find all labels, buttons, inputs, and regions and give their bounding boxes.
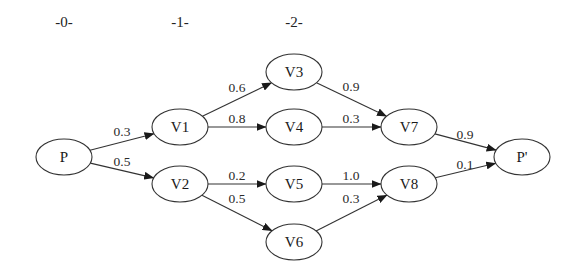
edge-weight-label: 0.3: [114, 124, 131, 139]
edge-weight-label: 0.9: [457, 127, 474, 142]
edge-weight-label: 0.5: [114, 154, 131, 169]
node-label: V8: [400, 176, 418, 192]
edge-weight-label: 0.3: [343, 191, 360, 206]
node-v3: V3: [266, 54, 322, 90]
node-v2: V2: [152, 166, 208, 202]
edge-weight-label: 1.0: [343, 168, 360, 183]
node-v5: V5: [266, 166, 322, 202]
node-label: V6: [285, 234, 304, 250]
column-header-2: -2-: [285, 14, 303, 30]
node-label: V2: [171, 176, 189, 192]
edge-weight-label: 0.5: [229, 191, 246, 206]
node-label: P': [516, 149, 527, 165]
edge-weight-label: 0.6: [229, 80, 246, 95]
edge-weight-label: 0.9: [343, 79, 360, 94]
node-v7: V7: [381, 109, 437, 145]
node-label: V5: [285, 176, 303, 192]
edge-weight-label: 0.3: [343, 111, 360, 126]
graph-canvas: -0--1--2- 0.30.50.60.80.20.50.90.31.00.3…: [0, 0, 570, 277]
edge-weight-label: 0.2: [229, 168, 246, 183]
edges: [90, 83, 496, 231]
node-v8: V8: [381, 166, 437, 202]
node-label: V1: [171, 119, 189, 135]
node-p: P: [36, 139, 92, 175]
node-label: V4: [285, 119, 304, 135]
edge-weight-label: 0.8: [229, 111, 246, 126]
node-v4: V4: [266, 109, 322, 145]
node-v6: V6: [266, 224, 322, 260]
node-pp: P': [494, 139, 550, 175]
node-label: V7: [400, 119, 419, 135]
column-header-1: -1-: [171, 14, 189, 30]
node-v1: V1: [152, 109, 208, 145]
node-label: P: [60, 149, 68, 165]
column-headers: -0--1--2-: [55, 14, 303, 30]
column-header-0: -0-: [55, 14, 73, 30]
edge-weight-label: 0.1: [457, 157, 474, 172]
node-label: V3: [285, 64, 303, 80]
